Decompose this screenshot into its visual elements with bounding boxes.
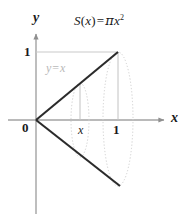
line-equation-rhs: x bbox=[60, 61, 65, 75]
y-axis-label: y bbox=[33, 11, 39, 25]
line-equation-label: y=x bbox=[46, 62, 65, 74]
origin-label: 0 bbox=[22, 121, 29, 134]
coordinate-plot-svg bbox=[0, 0, 189, 218]
formula-equals-sign: = bbox=[96, 13, 106, 28]
x-axis-tick-label-x: x bbox=[78, 124, 83, 136]
line-equation-equals: = bbox=[51, 61, 60, 75]
x-axis-tick-label-1: 1 bbox=[113, 123, 120, 136]
x-axis-label: x bbox=[171, 111, 178, 125]
formula-exponent: 2 bbox=[120, 13, 124, 22]
formula-pi-symbol: π bbox=[105, 13, 114, 28]
formula-function-name: S bbox=[74, 13, 81, 28]
y-axis-tick-label-1: 1 bbox=[24, 45, 31, 58]
math-figure: S(x)=πx2 y x 0 1 x 1 y=x bbox=[0, 0, 189, 218]
formula-label: S(x)=πx2 bbox=[74, 14, 124, 27]
